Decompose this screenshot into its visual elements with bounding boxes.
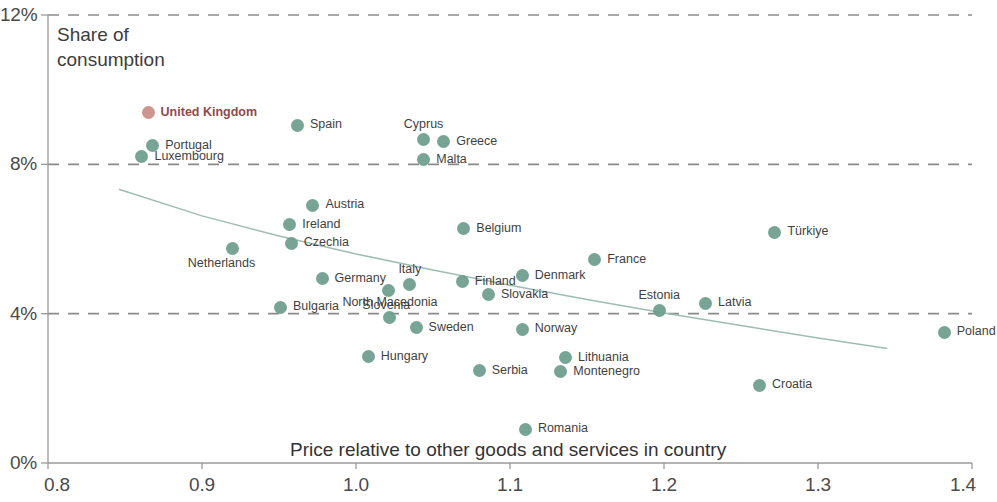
data-point-marker[interactable] [291, 119, 304, 132]
y-axis-tick-label: 8% [0, 153, 37, 175]
y-axis-tick-label: 4% [0, 303, 37, 325]
data-point-marker[interactable] [699, 297, 712, 310]
data-point-label: Latvia [718, 296, 751, 309]
data-point-marker[interactable] [316, 272, 329, 285]
data-point-marker[interactable] [653, 304, 666, 317]
data-point-marker[interactable] [417, 133, 430, 146]
data-point-label: Lithuania [578, 351, 629, 364]
x-axis-tick-label: 0.9 [172, 474, 232, 496]
x-axis-tick-label: 1.4 [933, 474, 993, 496]
data-point-marker[interactable] [473, 364, 486, 377]
data-point-marker[interactable] [142, 106, 155, 119]
x-axis-tick-label: 1.3 [788, 474, 848, 496]
y-axis-title: Share of consumption [57, 22, 217, 72]
data-point-label: Spain [310, 118, 342, 131]
data-point-label: Hungary [381, 350, 428, 363]
data-point-label: Romania [538, 422, 588, 435]
data-point-label: Belgium [476, 222, 521, 235]
data-point-marker[interactable] [753, 379, 766, 392]
data-point-marker[interactable] [362, 350, 375, 363]
y-axis-tick-label: 12% [0, 4, 37, 26]
data-point-label: Slovakia [501, 288, 548, 301]
data-point-label: Czechia [304, 236, 349, 249]
data-point-marker[interactable] [410, 321, 423, 334]
scatter-chart: Share of consumption Price relative to o… [0, 0, 997, 502]
data-point-label: Luxembourg [154, 150, 224, 163]
x-axis-tick-label: 1.0 [326, 474, 386, 496]
data-point-label: Ireland [302, 218, 340, 231]
data-point-label: Denmark [535, 269, 586, 282]
x-axis-tick-label: 1.1 [480, 474, 540, 496]
data-point-label: Cyprus [404, 118, 444, 131]
data-point-label: Italy [398, 263, 421, 276]
data-point-label: United Kingdom [161, 106, 258, 119]
data-point-label: Finland [475, 275, 516, 288]
data-point-label: Croatia [772, 378, 812, 391]
data-point-marker[interactable] [938, 326, 951, 339]
data-point-label: Estonia [638, 289, 680, 302]
data-point-label: Malta [436, 153, 467, 166]
data-point-marker[interactable] [274, 301, 287, 314]
data-point-label: North Macedonia [342, 296, 437, 309]
plot-area [0, 0, 997, 502]
data-point-label: Serbia [492, 364, 528, 377]
data-point-marker[interactable] [285, 237, 298, 250]
data-point-label: Poland [957, 325, 996, 338]
x-axis-tick-label: 1.2 [634, 474, 694, 496]
y-axis-tick-label: 0% [0, 452, 37, 474]
data-point-label: Norway [535, 322, 577, 335]
data-point-label: Greece [456, 135, 497, 148]
data-point-marker[interactable] [516, 269, 529, 282]
data-point-label: France [607, 253, 646, 266]
data-point-label: Germany [335, 272, 386, 285]
data-point-marker[interactable] [482, 288, 495, 301]
axis-lines [41, 15, 972, 469]
data-point-label: Austria [325, 198, 364, 211]
data-point-label: Montenegro [573, 365, 640, 378]
data-point-label: Sweden [429, 321, 474, 334]
data-point-label: Bulgaria [293, 300, 339, 313]
data-point-marker[interactable] [516, 323, 529, 336]
data-point-label: Türkiye [787, 225, 828, 238]
x-axis-title: Price relative to other goods and servic… [290, 439, 726, 461]
x-axis-tick-label: 0.8 [27, 474, 87, 496]
data-point-marker[interactable] [519, 423, 532, 436]
data-point-label: Netherlands [188, 257, 255, 270]
